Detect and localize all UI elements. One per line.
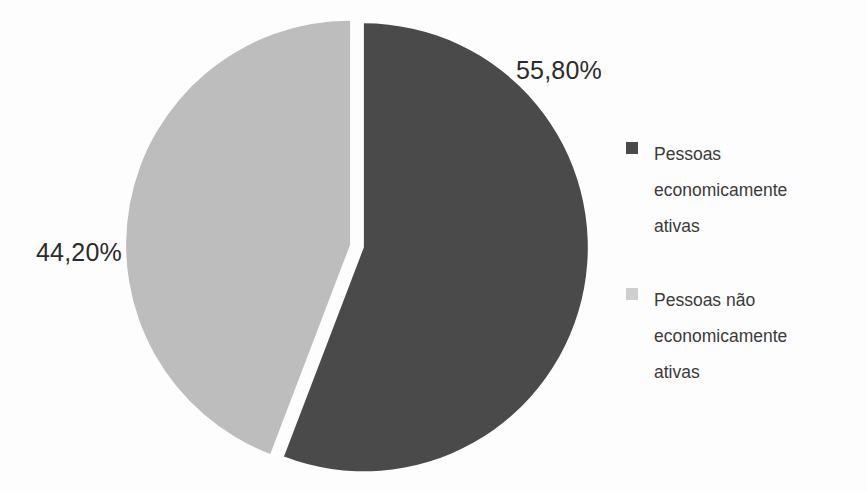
pie-chart-canvas: 55,80% 44,20% Pessoas economicamente ati… [0, 0, 867, 493]
legend-swatch-light-icon [626, 288, 638, 300]
legend-item-economically-active[interactable]: Pessoas economicamente ativas [626, 136, 862, 244]
chart-legend: Pessoas economicamente ativas Pessoas nã… [626, 136, 862, 428]
pie-label-economically-active: 55,80% [516, 56, 602, 85]
legend-label-not-economically-active: Pessoas não economicamente ativas [654, 282, 829, 390]
legend-label-economically-active: Pessoas economicamente ativas [654, 136, 829, 244]
legend-swatch-dark-icon [626, 142, 638, 154]
legend-item-not-economically-active[interactable]: Pessoas não economicamente ativas [626, 282, 862, 390]
pie-label-not-economically-active: 44,20% [36, 238, 122, 267]
